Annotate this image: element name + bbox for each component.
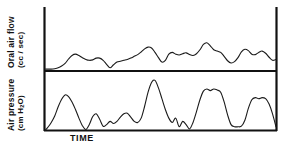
y-axis-label-top-units: (cc / sec): [16, 16, 26, 68]
y-axis-label-bottom-units: (cm H2O): [16, 79, 27, 131]
axes-frame: [44, 7, 277, 131]
trace-oral-air-flow: [46, 43, 277, 69]
x-axis-label-time: TIME: [70, 133, 94, 143]
subscript-two: 2: [19, 104, 25, 107]
trace-air-pressure: [46, 80, 277, 130]
y-axis-label-bottom-line1: Air pressure: [6, 79, 16, 131]
y-axis-label-top-line1: Oral air flow: [6, 16, 16, 68]
units-suffix: O): [16, 95, 25, 104]
units-prefix: (cm H: [16, 108, 25, 131]
y-axis-label-oral-air-flow: Oral air flow (cc / sec): [6, 16, 26, 68]
y-axis-label-air-pressure: Air pressure (cm H2O): [6, 79, 27, 131]
chart-plot-area: [0, 0, 293, 152]
physiology-recording-figure: Oral air flow (cc / sec) Air pressure (c…: [0, 0, 293, 152]
